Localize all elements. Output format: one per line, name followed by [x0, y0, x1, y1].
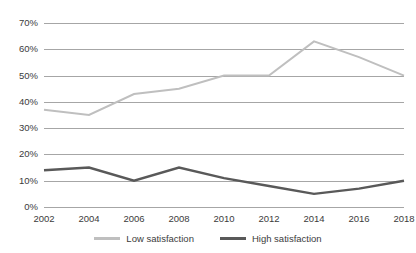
legend-label: High satisfaction	[252, 233, 322, 244]
x-axis-tick-label: 2010	[213, 213, 234, 224]
x-axis-tick-label: 2014	[303, 213, 324, 224]
y-axis-tick-label: 0%	[4, 202, 38, 212]
gridline	[44, 207, 404, 208]
x-axis-tick-label: 2016	[348, 213, 369, 224]
series-line	[44, 41, 404, 115]
y-axis-tick-label: 20%	[4, 149, 38, 159]
series-lines	[44, 23, 404, 207]
plot-area	[44, 23, 404, 207]
legend-swatch-icon	[94, 237, 120, 240]
legend-label: Low satisfaction	[126, 233, 194, 244]
y-axis-tick-label: 50%	[4, 71, 38, 81]
x-axis-tick-label: 2002	[33, 213, 54, 224]
legend-swatch-icon	[220, 237, 246, 240]
legend-item[interactable]: High satisfaction	[220, 233, 322, 244]
y-axis-tick-label: 60%	[4, 44, 38, 54]
y-axis-tick-label: 30%	[4, 123, 38, 133]
y-axis-tick-label: 10%	[4, 176, 38, 186]
series-line	[44, 168, 404, 194]
legend-item[interactable]: Low satisfaction	[94, 233, 194, 244]
y-axis-tick-label: 40%	[4, 97, 38, 107]
x-axis-tick-label: 2012	[258, 213, 279, 224]
chart-container: 0%10%20%30%40%50%60%70% 2002200420062008…	[0, 0, 416, 253]
x-axis-tick-label: 2004	[78, 213, 99, 224]
x-axis-labels: 200220042006200820102012201420162018	[44, 210, 404, 226]
x-axis-tick-label: 2008	[168, 213, 189, 224]
chart-legend: Low satisfactionHigh satisfaction	[0, 233, 416, 244]
x-axis-tick-label: 2018	[393, 213, 414, 224]
y-axis-tick-label: 70%	[4, 18, 38, 28]
x-axis-tick-label: 2006	[123, 213, 144, 224]
